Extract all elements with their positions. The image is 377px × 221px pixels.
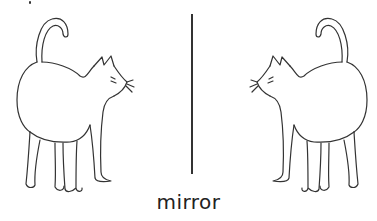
mirror-line: [191, 14, 193, 174]
cat-right-drawing: [250, 18, 367, 191]
cat-left-drawing: [17, 18, 134, 191]
caption: mirror: [0, 190, 377, 214]
mirror-diagram: mirror: [0, 0, 377, 221]
